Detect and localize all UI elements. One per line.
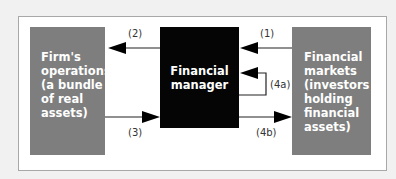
arrow-4b (239, 111, 292, 123)
arrow-label-3: (3) (128, 127, 142, 139)
arrow-label-4a: (4a) (270, 79, 290, 91)
arrow-3 (105, 111, 160, 123)
arrow-label-1: (1) (260, 28, 274, 40)
arrows-layer (0, 0, 396, 179)
arrow-label-2: (2) (128, 28, 142, 40)
arrow-1 (240, 42, 292, 54)
arrow-label-4b: (4b) (256, 127, 277, 139)
arrow-4a (239, 67, 266, 95)
arrow-2 (108, 42, 160, 54)
